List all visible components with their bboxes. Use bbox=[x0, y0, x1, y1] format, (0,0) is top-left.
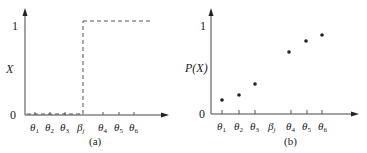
y-tick-1: 1 bbox=[12, 19, 18, 33]
svg-text:θ2: θ2 bbox=[234, 120, 243, 134]
figure: 1 0 X θ1 θ2 θ3 βj θ4 θ5 θ6 (a) bbox=[0, 0, 367, 153]
svg-text:βj: βj bbox=[267, 120, 275, 134]
svg-text:βj: βj bbox=[76, 121, 84, 135]
x-tick-labels: θ1 θ2 θ3 βj θ4 θ5 θ6 bbox=[217, 120, 327, 134]
y-axis-arrow-icon bbox=[23, 8, 28, 16]
y-tick-0: 0 bbox=[10, 108, 16, 122]
x-tick-labels: θ1 θ2 θ3 βj θ4 θ5 θ6 bbox=[30, 121, 138, 135]
x-axis-arrow-icon bbox=[351, 112, 359, 117]
point-theta6 bbox=[320, 33, 324, 37]
svg-text:θ2: θ2 bbox=[45, 121, 54, 135]
svg-text:θ1: θ1 bbox=[30, 121, 39, 135]
point-theta3 bbox=[253, 82, 257, 86]
svg-text:θ1: θ1 bbox=[217, 120, 226, 134]
panel-b: 1 0 P(X) θ1 θ2 θ3 βj θ4 θ5 θ6 (b) bbox=[184, 8, 359, 148]
step-line bbox=[27, 21, 150, 114]
point-theta5 bbox=[304, 39, 308, 43]
svg-text:θ6: θ6 bbox=[129, 121, 138, 135]
panel-a: 1 0 X θ1 θ2 θ3 βj θ4 θ5 θ6 (a) bbox=[5, 8, 169, 148]
y-axis-arrow-icon bbox=[209, 8, 214, 16]
caption-a: (a) bbox=[89, 135, 102, 148]
svg-text:θ3: θ3 bbox=[250, 120, 259, 134]
y-tick-0: 0 bbox=[199, 107, 205, 121]
data-points bbox=[220, 33, 324, 102]
point-theta2 bbox=[237, 93, 241, 97]
svg-text:θ4: θ4 bbox=[286, 120, 295, 134]
point-theta4 bbox=[287, 50, 291, 54]
svg-text:θ6: θ6 bbox=[318, 120, 327, 134]
svg-text:θ5: θ5 bbox=[302, 120, 311, 134]
x-ticks bbox=[222, 110, 322, 114]
y-tick-1: 1 bbox=[200, 19, 206, 33]
svg-text:θ3: θ3 bbox=[60, 121, 69, 135]
y-axis-label: P(X) bbox=[184, 61, 208, 75]
svg-text:θ4: θ4 bbox=[98, 121, 107, 135]
point-theta1 bbox=[220, 98, 224, 102]
y-axis-label: X bbox=[5, 62, 14, 76]
svg-text:θ5: θ5 bbox=[114, 121, 123, 135]
x-axis-arrow-icon bbox=[161, 113, 169, 118]
caption-b: (b) bbox=[284, 135, 297, 148]
